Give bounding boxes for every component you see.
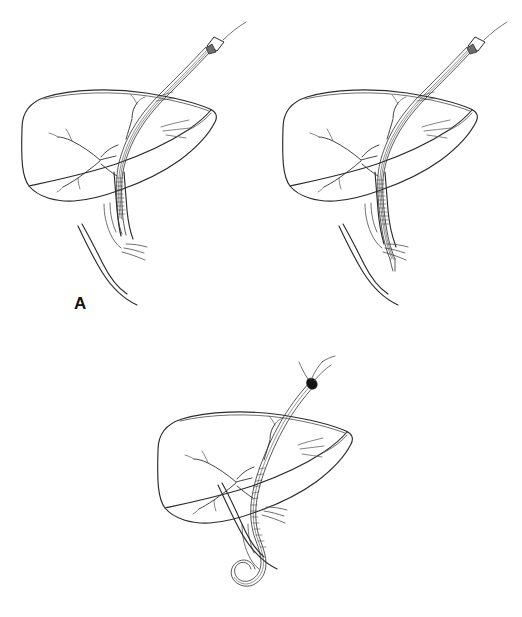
panel-c-illustration: [130, 335, 391, 617]
panel-label-a: A: [74, 295, 86, 312]
intrahepatic-biliary-tree: [49, 129, 118, 192]
panel-a-illustration: [0, 0, 261, 330]
right-hepatic-duct-branch: [387, 95, 406, 139]
right-lobe-peripheral-ducts: [422, 120, 451, 138]
figure-canvas: A: [0, 0, 522, 617]
intrahepatic-biliary-tree: [185, 451, 254, 514]
intrahepatic-biliary-tree: [310, 129, 379, 192]
drainage-catheter: [116, 47, 211, 235]
liver-outline: [22, 90, 217, 201]
catheter-hub-icon: [206, 22, 246, 54]
panel-b-illustration: [261, 0, 522, 330]
right-lobe-peripheral-ducts: [161, 120, 190, 138]
right-hepatic-duct-branch: [126, 95, 145, 139]
biliary-outflow-and-duodenum: [78, 172, 147, 305]
puncture-site-icon: [299, 356, 335, 389]
panel-b: B: [261, 0, 522, 330]
pigtail-catheter: [231, 382, 315, 586]
catheter-hub-icon: [467, 22, 507, 54]
panel-c: C: [130, 335, 391, 617]
liver-outline: [158, 412, 353, 523]
biliary-outflow-and-duodenum: [339, 172, 408, 305]
panel-a: A: [0, 0, 261, 330]
